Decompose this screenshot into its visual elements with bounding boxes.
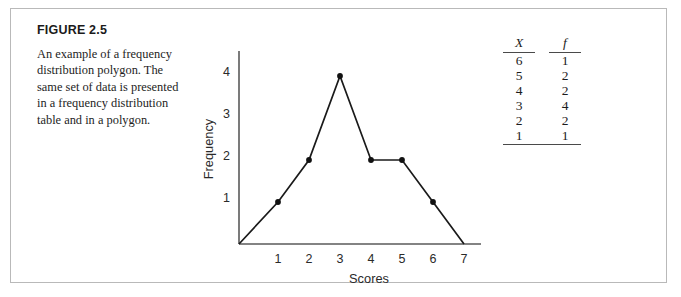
cell-f: 2	[549, 113, 581, 128]
cell-f: 1	[549, 128, 581, 145]
column-header-f: f	[549, 35, 581, 53]
table-row: 6 1	[503, 53, 581, 69]
cell-gap	[535, 113, 549, 128]
y-tick-label-3: 3	[223, 107, 230, 121]
cell-gap	[535, 98, 549, 113]
x-tick-label-2: 2	[306, 252, 313, 266]
cell-gap	[535, 128, 549, 145]
y-tick-label-1: 1	[223, 191, 230, 205]
cell-x: 4	[503, 83, 535, 98]
y-tick-label-2: 2	[223, 149, 230, 163]
table-row: 5 2	[503, 68, 581, 83]
data-point-marker	[337, 73, 343, 79]
data-point-marker	[275, 199, 281, 205]
cell-x: 6	[503, 53, 535, 69]
data-point-marker	[399, 157, 405, 163]
table-header-row: X f	[503, 35, 581, 53]
cell-f: 4	[549, 98, 581, 113]
cell-gap	[535, 53, 549, 69]
cell-x: 3	[503, 98, 535, 113]
data-point-marker	[368, 157, 374, 163]
figure-title: FIGURE 2.5	[37, 23, 187, 37]
cell-x: 5	[503, 68, 535, 83]
x-tick-label-3: 3	[337, 252, 344, 266]
data-point-marker	[430, 199, 436, 205]
table-row: 1 1	[503, 128, 581, 145]
x-tick-label-4: 4	[368, 252, 375, 266]
cell-f: 2	[549, 68, 581, 83]
cell-f: 1	[549, 53, 581, 69]
x-tick-label-7: 7	[461, 252, 468, 266]
table-row: 2 2	[503, 113, 581, 128]
frequency-distribution-table: X f 6 1 5 2 4 2	[503, 35, 583, 145]
cell-x: 1	[503, 128, 535, 145]
column-gap	[535, 35, 549, 53]
cell-f: 2	[549, 83, 581, 98]
table-row: 3 4	[503, 98, 581, 113]
column-header-x: X	[503, 35, 535, 53]
frequency-polyline	[239, 76, 464, 244]
y-tick-label-4: 4	[223, 65, 230, 79]
y-axis-title: Frequency	[201, 118, 216, 179]
cell-gap	[535, 68, 549, 83]
table-row: 4 2	[503, 83, 581, 98]
x-tick-label-5: 5	[399, 252, 406, 266]
figure-caption-text: An example of a frequency distribution p…	[37, 46, 187, 128]
figure-box: FIGURE 2.5 An example of a frequency dis…	[10, 8, 667, 283]
cell-gap	[535, 83, 549, 98]
data-table: X f 6 1 5 2 4 2	[503, 35, 581, 145]
data-point-marker	[306, 157, 312, 163]
x-axis-title: Scores	[349, 271, 389, 286]
figure-caption: FIGURE 2.5 An example of a frequency dis…	[37, 23, 187, 128]
x-tick-label-1: 1	[275, 252, 282, 266]
x-tick-label-6: 6	[430, 252, 437, 266]
chart-svg: 4 3 2 1 1 2 3 4 5 6 7 Frequency Scores	[197, 37, 497, 287]
frequency-polygon-chart: 4 3 2 1 1 2 3 4 5 6 7 Frequency Scores	[197, 37, 497, 287]
cell-x: 2	[503, 113, 535, 128]
